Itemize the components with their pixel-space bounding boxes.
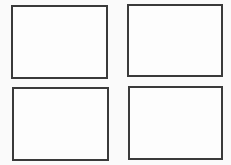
- panel-bottom-left: [12, 87, 109, 161]
- panel-bottom-right: [128, 86, 223, 160]
- panel-top-left: [11, 5, 108, 79]
- diagram-canvas: [0, 0, 231, 165]
- panel-top-right: [127, 4, 223, 77]
